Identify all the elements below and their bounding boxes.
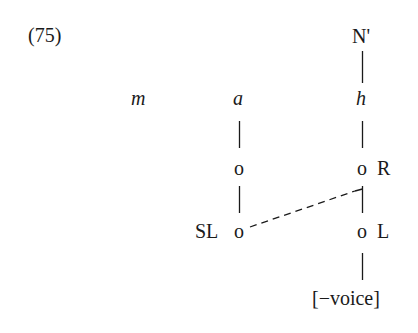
association-lines	[0, 0, 418, 333]
tick-r-l	[355, 189, 363, 191]
dashed-association	[250, 191, 355, 227]
